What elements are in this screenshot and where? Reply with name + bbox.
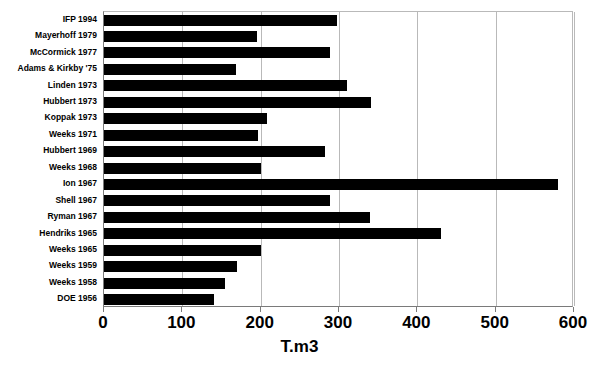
bar-row <box>104 111 572 127</box>
x-axis-title: T.m3 <box>0 337 599 357</box>
y-axis-tick-label: Linden 1973 <box>0 80 97 91</box>
y-axis-tick-label: Shell 1967 <box>0 195 97 206</box>
bar-row <box>104 160 572 176</box>
bar-row <box>104 28 572 44</box>
bar <box>104 261 237 272</box>
y-axis-tick-label: McCormick 1977 <box>0 47 97 58</box>
x-axis-tickmark <box>495 307 496 312</box>
x-axis-tick-label: 500 <box>480 313 508 333</box>
bar-row <box>104 259 572 275</box>
chart-title <box>0 0 599 10</box>
x-axis-tickmark <box>103 307 104 312</box>
bar-row <box>104 209 572 225</box>
bar <box>104 15 337 26</box>
y-axis-tick-label: Ion 1967 <box>0 178 97 189</box>
y-axis-tick-label: Weeks 1959 <box>0 260 97 271</box>
x-axis-tick-label: 200 <box>245 313 273 333</box>
bar <box>104 64 236 75</box>
bar-row <box>104 78 572 94</box>
bar <box>104 245 261 256</box>
bar-row <box>104 226 572 242</box>
bar-row <box>104 45 572 61</box>
bar-row <box>104 176 572 192</box>
x-axis-tick-label: 600 <box>559 313 587 333</box>
x-axis-tick-labels: 0100200300400500600 <box>0 313 599 335</box>
bar <box>104 97 371 108</box>
bar-row <box>104 61 572 77</box>
y-axis-tick-label: Adams & Kirkby '75 <box>0 63 97 74</box>
x-axis-tickmark <box>181 307 182 312</box>
bar <box>104 130 258 141</box>
y-axis-tick-label: Mayerhoff 1979 <box>0 30 97 41</box>
y-axis-tick-label: IFP 1994 <box>0 14 97 25</box>
bar-row <box>104 12 572 28</box>
gridline <box>574 12 575 306</box>
y-axis-category-labels: IFP 1994Mayerhoff 1979McCormick 1977Adam… <box>0 11 99 307</box>
y-axis-tick-label: Hubbert 1973 <box>0 96 97 107</box>
bar <box>104 228 441 239</box>
y-axis-tick-label: Weeks 1965 <box>0 244 97 255</box>
bar-row <box>104 193 572 209</box>
bar <box>104 278 225 289</box>
x-axis-tickmark <box>260 307 261 312</box>
bar <box>104 195 330 206</box>
bar-row <box>104 144 572 160</box>
x-axis-tickmark <box>338 307 339 312</box>
y-axis-tick-label: Weeks 1968 <box>0 162 97 173</box>
x-axis-tickmark <box>573 307 574 312</box>
bar <box>104 31 257 42</box>
y-axis-tick-label: DOE 1956 <box>0 293 97 304</box>
y-axis-tick-label: Weeks 1958 <box>0 277 97 288</box>
bar <box>104 163 261 174</box>
bar <box>104 179 558 190</box>
y-axis-tick-label: Hubbert 1969 <box>0 145 97 156</box>
bar-row <box>104 292 572 308</box>
bar <box>104 294 214 305</box>
bar-chart: IFP 1994Mayerhoff 1979McCormick 1977Adam… <box>0 0 599 373</box>
x-axis-tick-label: 400 <box>402 313 430 333</box>
bar <box>104 113 267 124</box>
bar <box>104 146 325 157</box>
bar <box>104 80 347 91</box>
bar <box>104 47 330 58</box>
bar-row <box>104 127 572 143</box>
bar-row <box>104 275 572 291</box>
y-axis-tick-label: Koppak 1973 <box>0 112 97 123</box>
y-axis-tick-label: Weeks 1971 <box>0 129 97 140</box>
x-axis-tick-label: 0 <box>98 313 107 333</box>
x-axis-tick-label: 300 <box>324 313 352 333</box>
bar-row <box>104 242 572 258</box>
x-axis-tick-label: 100 <box>167 313 195 333</box>
plot-area <box>103 11 573 307</box>
x-axis-tickmark <box>416 307 417 312</box>
y-axis-tick-label: Ryman 1967 <box>0 211 97 222</box>
y-axis-tick-label: Hendriks 1965 <box>0 228 97 239</box>
bar <box>104 212 370 223</box>
bar-row <box>104 94 572 110</box>
